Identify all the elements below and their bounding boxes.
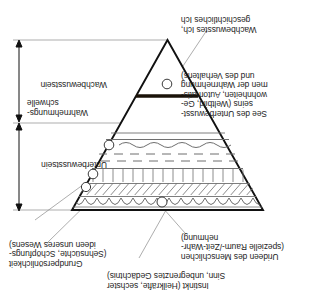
label-see-des-unterbewusstseins: See des Unterbewusst- seins (Weltbild, G… — [181, 70, 313, 118]
label-instinkt: Instinkt (Heilkräfte, sechster Sinn, unb… — [107, 271, 257, 290]
diagram-canvas: Instinkt (Heilkräfte, sechster Sinn, unb… — [0, 0, 335, 293]
bubble-wachbewusstsein — [162, 79, 172, 89]
label-urideen: Urideen des Menschlichen (spezielle Raum… — [181, 232, 329, 261]
label-wachbewusstes-ich: Wachbewusstes Ich, geschichtliches Ich — [181, 15, 305, 34]
bubble-wave-band — [157, 197, 167, 207]
label-wahrnehmungsschwelle: Wahrnehmungs- schwelle — [27, 98, 123, 117]
label-wachbewusstsein: Wachbewusstsein — [11, 79, 107, 89]
label-grundpersoenlichkeit: Grundpersönlichkeit (Sehnsüchte, Schöpfu… — [9, 239, 151, 268]
bubble-vertical-band — [88, 169, 98, 179]
bubble-dashed-band — [104, 140, 114, 150]
label-unterbewusstsein: Unterbewusstsein — [17, 159, 107, 169]
bubble-diagonal-band — [81, 182, 90, 191]
